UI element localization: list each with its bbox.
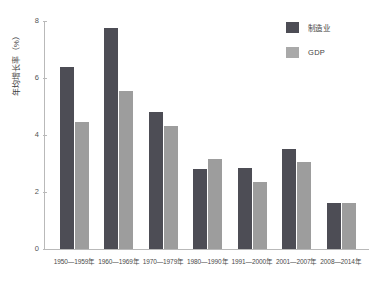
bar: [75, 122, 89, 249]
x-tick-label: 2001—2007年: [273, 256, 321, 266]
x-tick-label: 1991—2000年: [228, 256, 276, 266]
y-tick-label: 2: [35, 187, 39, 196]
bar: [253, 182, 267, 249]
bar: [282, 149, 296, 249]
bar-group: [149, 21, 178, 249]
x-tick-label: 1970—1979年: [139, 256, 187, 266]
bar: [208, 159, 222, 249]
y-tick: 0: [43, 249, 47, 250]
bar: [297, 162, 311, 249]
legend-label: GDP: [308, 48, 325, 57]
x-tick-label: 1950—1959年: [51, 256, 99, 266]
x-tick-label: 1980—1990年: [184, 256, 232, 266]
bar: [60, 67, 74, 249]
bar: [104, 28, 118, 249]
bar-chart: 年均增长率（%） 02468 1950—1959年1960—1969年1970—…: [0, 0, 387, 286]
bar: [342, 203, 356, 249]
x-tick-label: 2008—2014年: [317, 256, 365, 266]
y-axis-line: [44, 22, 45, 250]
bar-group: [193, 21, 222, 249]
bar: [238, 168, 252, 249]
chart-legend: 制造业GDP: [286, 22, 330, 72]
bar: [164, 126, 178, 249]
legend-label: 制造业: [308, 22, 330, 33]
bar-group: [238, 21, 267, 249]
y-tick-label: 8: [35, 16, 39, 25]
bar-group: [327, 21, 356, 249]
y-tick: 4: [43, 135, 47, 136]
y-tick-label: 4: [35, 130, 39, 139]
y-tick-label: 0: [35, 244, 39, 253]
legend-item[interactable]: GDP: [286, 47, 330, 58]
bar: [149, 112, 163, 249]
x-axis-line: [44, 249, 369, 250]
legend-swatch: [286, 22, 299, 33]
y-tick: 6: [43, 78, 47, 79]
bar-group: [60, 21, 89, 249]
y-tick: 2: [43, 192, 47, 193]
y-axis-title: 年均增长率（%）: [10, 19, 24, 109]
x-tick-label: 1960—1969年: [95, 256, 143, 266]
legend-item[interactable]: 制造业: [286, 22, 330, 33]
bar: [193, 169, 207, 249]
bar: [327, 203, 341, 249]
y-tick-label: 6: [35, 73, 39, 82]
bar: [119, 91, 133, 249]
y-tick: 8: [43, 21, 47, 22]
bar-group: [104, 21, 133, 249]
legend-swatch: [286, 47, 299, 58]
